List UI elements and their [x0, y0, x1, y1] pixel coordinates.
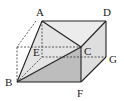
label-b: B [5, 76, 12, 88]
label-d: D [103, 6, 111, 18]
label-c: C [84, 45, 91, 57]
geometry-diagram: A D C G E B F [0, 0, 124, 101]
label-e: E [33, 46, 40, 58]
label-a: A [36, 6, 44, 18]
label-g: G [109, 53, 117, 65]
label-f: F [77, 87, 83, 99]
box-figure: A D C G E B F [0, 0, 124, 101]
